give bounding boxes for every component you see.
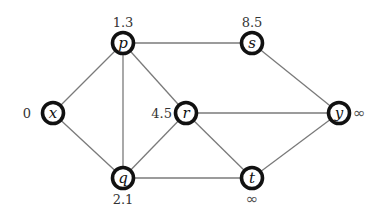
node-label: s — [248, 34, 256, 52]
node-label: q — [118, 169, 128, 187]
edge-s-y — [252, 43, 339, 113]
node-label: y — [334, 104, 344, 122]
nodes: x0p1.3q2.1r4.5s8.5t∞y∞ — [23, 15, 366, 208]
node-s: s8.5 — [242, 15, 263, 54]
distance-label: 2.1 — [113, 192, 134, 207]
edge-p-r — [123, 43, 186, 113]
distance-label: ∞ — [246, 190, 259, 208]
node-t: t∞ — [242, 168, 263, 209]
edge-t-y — [252, 113, 339, 178]
node-y: y∞ — [329, 103, 366, 124]
edge-q-r — [123, 113, 186, 178]
distance-label: 1.3 — [113, 15, 134, 30]
node-label: x — [49, 104, 58, 122]
node-q: q2.1 — [113, 168, 134, 208]
node-label: t — [249, 169, 256, 187]
distance-label: ∞ — [353, 104, 366, 122]
distance-label: 4.5 — [151, 106, 172, 121]
edge-x-q — [53, 113, 123, 178]
edge-x-p — [53, 43, 123, 113]
node-r: r4.5 — [151, 103, 196, 124]
graph-diagram: x0p1.3q2.1r4.5s8.5t∞y∞ — [0, 0, 385, 223]
edge-r-t — [186, 113, 252, 178]
node-label: p — [118, 34, 128, 52]
node-x: x0 — [23, 103, 64, 124]
distance-label: 0 — [23, 106, 31, 121]
distance-label: 8.5 — [242, 15, 263, 30]
node-label: r — [182, 104, 190, 122]
node-p: p1.3 — [113, 15, 134, 54]
